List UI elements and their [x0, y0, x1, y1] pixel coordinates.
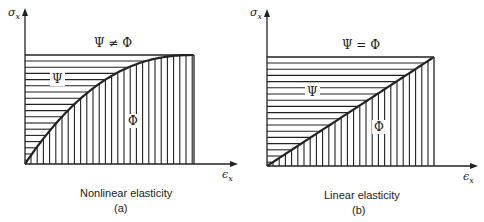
panel-b-top-label: Ψ = Φ [340, 38, 382, 52]
stress-strain-curve [267, 58, 433, 166]
panel-b-phi-label: Φ [372, 120, 386, 134]
panel-b-sub-label: (b) [352, 204, 365, 216]
y-axis-arrow-icon [264, 9, 270, 17]
y-axis-arrow-icon [22, 8, 28, 16]
panel-b-y-axis-label: σx [250, 6, 262, 21]
panel-b-x-axis-label: ϵx [463, 170, 474, 185]
panel-a-caption: Nonlinear elasticity [80, 187, 172, 199]
figure-canvas [0, 0, 484, 222]
x-axis-arrow-icon [470, 163, 478, 169]
panel-a-y-axis-label: σx [8, 6, 20, 21]
panel-a-top-label: Ψ ≠ Φ [92, 36, 134, 50]
panel-a-phi-label: Φ [126, 114, 140, 128]
panel-a-sub-label: (a) [114, 202, 127, 214]
x-axis-arrow-icon [230, 161, 238, 167]
panel-a-psi-label: Ψ [50, 72, 65, 86]
panel-b-caption: Linear elasticity [324, 189, 400, 201]
panel-b-psi-label: Ψ [305, 85, 320, 99]
panel-a-x-axis-label: ϵx [222, 168, 233, 183]
